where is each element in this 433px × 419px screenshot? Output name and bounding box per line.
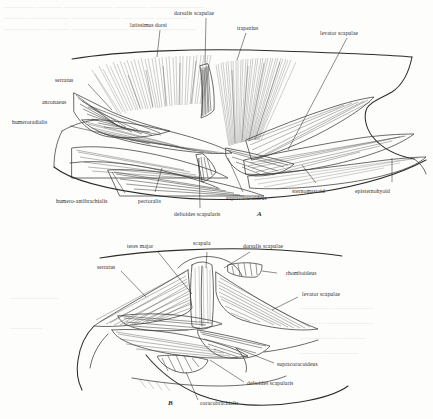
label-supracoracoideus: supracoracoideus	[226, 195, 267, 201]
label-coracobrachialis: coracobrachialis	[200, 400, 239, 406]
label-serratus: serratus	[55, 77, 73, 83]
label-rhomboideus: rhomboideus	[286, 270, 317, 276]
label-humero-antibrachialis: humero-antibrachialis	[56, 198, 108, 204]
plate-background	[0, 0, 433, 419]
label-trapezius: trapezius	[237, 25, 258, 31]
svg-text:———— —————: ———— —————	[299, 303, 375, 312]
anatomical-plate: ———— ——— —————— ———— ——————— ——— ————— —…	[0, 0, 433, 419]
svg-text:————— ——— ——————— ——— —————: ————— ——— ——————— ——— —————	[3, 24, 197, 33]
label-humeroradialis: humeroradialis	[12, 119, 47, 125]
label-pectoralis: pectoralis	[138, 198, 161, 204]
label-scapula-b: scapula	[193, 240, 211, 246]
label-deltoides-scapularis-b: deltoides scapularis	[247, 380, 293, 386]
figure-b-mark: B	[167, 399, 173, 407]
label-deltoides-scapularis: deltoides scapularis	[174, 211, 220, 217]
label-dorsalis-scapulae-b: dorsalis scapulae	[243, 243, 283, 249]
label-levator-scapulae: levator scapulae	[320, 30, 359, 36]
svg-text:——— ————— —————— ———— ————: ——— ————— —————— ———— ————	[3, 13, 189, 22]
svg-text:————— ———: ————— ———	[299, 333, 367, 342]
label-serratus-b: serratus	[97, 264, 115, 270]
svg-text:——— ————: ——— ————	[299, 348, 359, 357]
svg-text:————: ————	[9, 323, 43, 332]
label-anconaeus: anconaeus	[42, 99, 66, 105]
label-dorsalis-scapulae: dorsalis scapulae	[174, 10, 214, 16]
label-sternomastoid: sternomastoid	[292, 188, 325, 194]
label-episternohyoid: episternohyoid	[355, 188, 390, 194]
label-teres-major: teres major	[127, 243, 153, 249]
label-supracoracoideus-b: supracoracoideus	[277, 361, 318, 367]
label-levator-scapulae-b: levator scapulae	[302, 291, 341, 297]
label-latissimus-dorsi: latissimus dorsi	[130, 22, 167, 28]
figure-a-mark: A	[256, 210, 262, 218]
svg-text:——————: ——————	[9, 293, 59, 302]
